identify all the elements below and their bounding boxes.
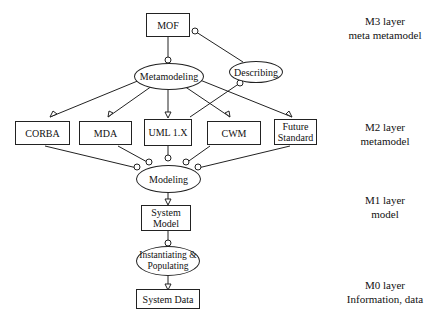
layer-m1: M1 layer model — [325, 193, 437, 221]
layer-m3: M3 layer meta metamodel — [325, 14, 437, 42]
metamodeling-label: Metamodeling — [140, 71, 198, 82]
layer-m3-desc: meta metamodel — [325, 28, 437, 42]
instantiating-populating-node: Instantiating & Populating — [136, 246, 200, 276]
layer-m2-desc: metamodel — [325, 134, 437, 148]
modeling-node: Modeling — [136, 165, 201, 193]
system-model-node: System Model — [141, 205, 191, 231]
describing-label: Describing — [234, 67, 278, 78]
layer-m2-name: M2 layer — [325, 120, 437, 134]
uml-node: UML 1.X — [144, 119, 192, 146]
cwm-label: CWM — [222, 128, 247, 139]
layer-m1-desc: model — [325, 207, 437, 221]
layer-m0-name: M0 layer — [325, 278, 437, 292]
modeling-label: Modeling — [149, 174, 188, 185]
future-label: Future — [282, 121, 308, 132]
mof-label: MOF — [157, 20, 179, 31]
standard-label: Standard — [278, 132, 314, 143]
metamodeling-node: Metamodeling — [134, 63, 204, 90]
corba-node: CORBA — [15, 121, 70, 145]
mda-label: MDA — [94, 128, 117, 139]
layer-m3-name: M3 layer — [325, 14, 437, 28]
layer-m2: M2 layer metamodel — [325, 120, 437, 148]
model-label: Model — [153, 218, 179, 229]
system-data-node: System Data — [136, 289, 200, 309]
mof-node: MOF — [146, 13, 190, 37]
connector-lines — [0, 0, 437, 322]
instantiating-label: Instantiating & — [139, 250, 196, 261]
layer-m0: M0 layer Information, data — [325, 278, 437, 306]
layer-m0-desc: Information, data — [325, 292, 437, 306]
cwm-node: CWM — [207, 121, 261, 145]
system-label: System — [151, 207, 180, 218]
describing-node: Describing — [229, 61, 283, 83]
populating-label: Populating — [147, 261, 188, 272]
future-standard-node: Future Standard — [274, 119, 317, 145]
mda-node: MDA — [79, 121, 132, 145]
corba-label: CORBA — [25, 128, 59, 139]
uml-label: UML 1.X — [148, 127, 187, 138]
layer-m1-name: M1 layer — [325, 193, 437, 207]
system-data-label: System Data — [143, 294, 194, 305]
